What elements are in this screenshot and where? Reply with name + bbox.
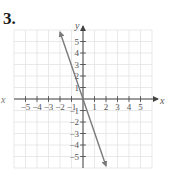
y-tick-label: −2 xyxy=(69,117,79,127)
y-tick-label: 5 xyxy=(75,37,80,47)
axes xyxy=(14,26,158,168)
x-tick-label: 5 xyxy=(138,102,143,112)
y-tick-label: 4 xyxy=(75,48,80,58)
coordinate-plane: xy−5−4−3−2−11234554321−1−2−3−4−5 xyxy=(0,0,171,182)
y-tick-label: −4 xyxy=(69,140,79,150)
x-tick-label: −2 xyxy=(55,102,65,112)
y-axis-label: y xyxy=(74,20,80,31)
y-tick-label: −5 xyxy=(69,152,79,162)
x-tick-label: 2 xyxy=(104,102,109,112)
x-tick-label: −3 xyxy=(44,102,54,112)
x-tick-label: −5 xyxy=(21,102,31,112)
x-tick-label: 3 xyxy=(115,102,120,112)
y-tick-label: −1 xyxy=(69,106,79,116)
x-tick-label: 4 xyxy=(127,102,132,112)
y-tick-label: 3 xyxy=(75,60,80,70)
y-tick-label: −3 xyxy=(69,129,79,139)
x-tick-label: −4 xyxy=(32,102,42,112)
x-tick-label: 1 xyxy=(92,102,97,112)
x-axis-label: x xyxy=(159,95,165,106)
